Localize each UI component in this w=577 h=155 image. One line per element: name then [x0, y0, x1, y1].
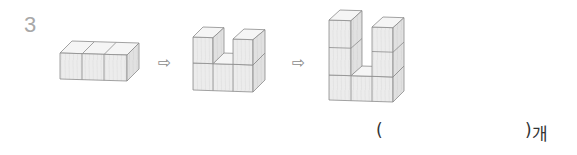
arrow-icon-1: ⇨ [158, 53, 171, 72]
answer-open-paren: ( [376, 120, 383, 140]
figure-3 [329, 10, 404, 102]
figure-2 [193, 27, 265, 92]
answer-unit: 개 [532, 120, 548, 145]
answer-input[interactable] [392, 120, 522, 142]
answer-close-paren: ) [525, 120, 532, 140]
arrow-icon-2: ⇨ [292, 53, 305, 72]
figure-1 [60, 41, 139, 81]
